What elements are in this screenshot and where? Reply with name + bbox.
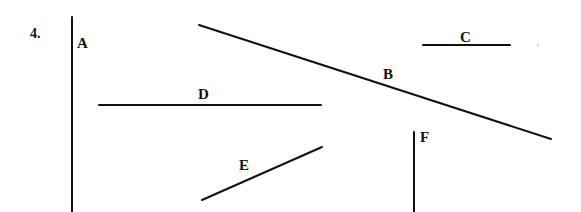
- label-c: C: [460, 29, 471, 45]
- label-f: F: [420, 129, 429, 145]
- label-e: E: [239, 157, 249, 173]
- label-b: B: [383, 66, 393, 82]
- segment-b: [199, 25, 551, 139]
- problem-number: 4.: [30, 26, 41, 41]
- label-d: D: [198, 86, 209, 102]
- segment-e: [202, 147, 322, 200]
- label-a: A: [77, 35, 88, 51]
- line-segments-diagram: 4. A B C D E F: [0, 0, 581, 212]
- stray-dot: [537, 44, 539, 46]
